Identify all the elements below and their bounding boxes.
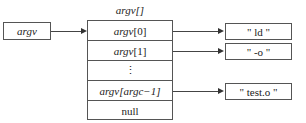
string-box-o: " -o " [225,43,292,60]
vertical-ellipsis: ⋮ [125,64,136,77]
arrowhead-0 [218,28,224,34]
array-cell-null: null [88,101,172,120]
arrow-line-1 [173,51,218,52]
array-cell-0: argv[0] [88,21,172,41]
argv-pointer-box: argv [3,22,51,40]
array-cell-ellipsis: ⋮ [88,61,172,81]
string-box-ld: " ld " [225,23,292,40]
arrow-line-2 [173,91,218,92]
array-cell-last: argv[argc−1] [88,81,172,101]
array-title: argv[] [87,4,173,16]
argv-array: argv[0] argv[1] ⋮ argv[argc−1] null [87,20,173,120]
array-cell-1: argv[1] [88,41,172,61]
string-box-testo: " test.o " [225,83,292,100]
arrowhead-1 [218,48,224,54]
arrowhead-2 [218,88,224,94]
arrow-line-0 [173,31,218,32]
pointer-arrow-line [51,31,81,32]
argv-pointer-label: argv [17,25,37,37]
